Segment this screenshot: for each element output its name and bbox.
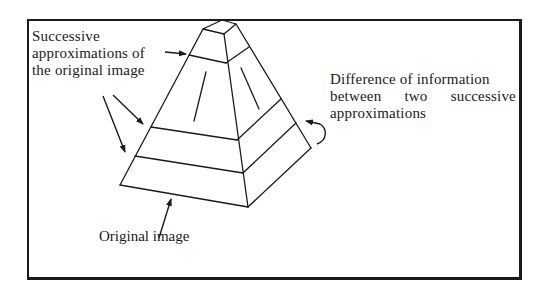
arrow-top-level	[165, 52, 186, 54]
label-line: the original image	[32, 62, 145, 79]
label-line: approximations of	[32, 45, 145, 62]
label-successive-approximations: Successive approximations of the origina…	[32, 28, 145, 79]
arrow-level-3	[103, 96, 125, 152]
label-word: successive	[451, 88, 516, 105]
arrow-difference	[306, 121, 325, 144]
arrow-level-2	[113, 95, 143, 124]
pyramid-top-cap	[203, 20, 236, 34]
label-line: Successive	[32, 28, 145, 45]
label-line: between two successive	[330, 88, 516, 105]
label-word: two	[404, 88, 427, 105]
label-line: Difference of information	[330, 71, 516, 88]
label-difference-information: Difference of information between two su…	[330, 71, 516, 122]
pyramid-front-edge	[224, 34, 248, 207]
pyramid-right-edge	[236, 24, 311, 148]
label-line: approximations	[330, 105, 516, 122]
label-original-image: Original image	[99, 228, 189, 245]
label-word: between	[330, 88, 381, 105]
